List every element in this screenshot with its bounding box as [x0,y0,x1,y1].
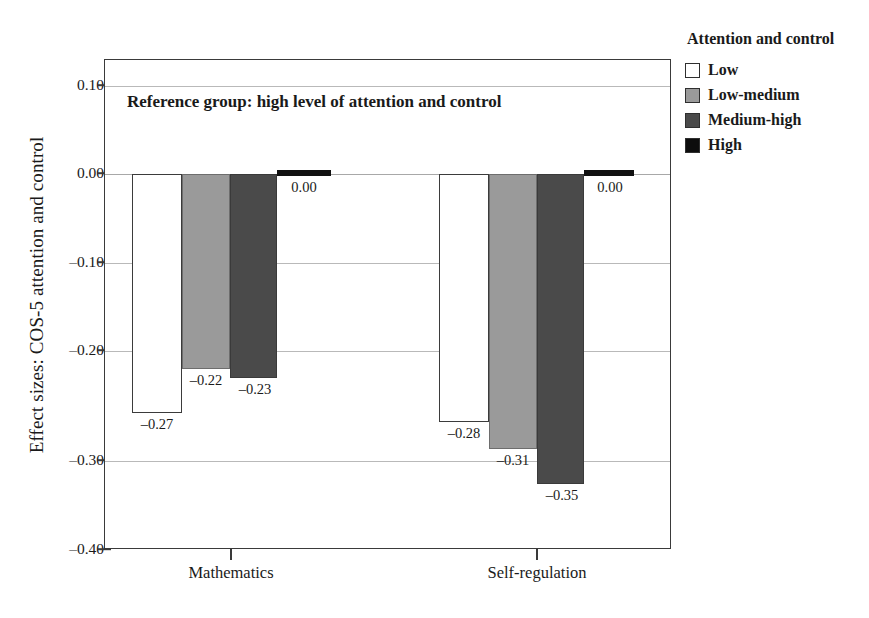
y-tick-label: –0.10 [42,253,104,271]
y-tick-label: –0.30 [42,451,104,469]
legend-label-medium-high: Medium-high [708,111,801,129]
bar-mathematics-medium-high [230,174,277,378]
y-axis-tick-labels: 0.10 0.00 –0.10 –0.20 –0.30 –0.40 [30,59,104,549]
y-tick-label: 0.00 [42,164,104,182]
legend-swatch-medium-high-icon [685,113,700,128]
legend-item-high: High [685,134,865,156]
y-tick-label: –0.20 [42,341,104,359]
bar-label-mathematics-low: –0.27 [141,416,174,433]
legend: Attention and control Low Low-medium Med… [685,30,865,159]
bar-mathematics-high [277,170,331,176]
bar-chart-figure: Effect sizes: COS-5 attention and contro… [0,0,869,618]
bar-selfregulation-low [439,174,489,422]
legend-swatch-low-icon [685,63,700,78]
legend-item-low-medium: Low-medium [685,84,865,106]
bar-label-selfregulation-medium-high: –0.35 [546,487,579,504]
bar-label-mathematics-high: 0.00 [291,179,316,196]
bar-label-selfregulation-high: 0.00 [597,179,622,196]
gridline-0.10 [105,86,670,87]
x-tick-label-selfregulation: Self-regulation [488,563,587,583]
reference-group-annotation: Reference group: high level of attention… [127,92,501,112]
bar-selfregulation-medium-high [537,174,584,484]
legend-title: Attention and control [687,30,865,48]
bar-mathematics-low-medium [182,174,230,369]
x-tick-mark-selfregulation [536,549,538,560]
bar-label-selfregulation-low: –0.28 [448,425,481,442]
gridline--0.30 [105,461,670,462]
bar-mathematics-low [132,174,182,413]
legend-item-medium-high: Medium-high [685,109,865,131]
legend-label-low-medium: Low-medium [708,86,800,104]
legend-label-low: Low [708,61,738,79]
legend-label-high: High [708,136,742,154]
bar-label-mathematics-low-medium: –0.22 [190,372,223,389]
y-tick-label: –0.40 [42,540,104,558]
bar-label-mathematics-medium-high: –0.23 [239,381,272,398]
plot-area: Reference group: high level of attention… [104,59,671,549]
legend-swatch-high-icon [685,138,700,153]
bar-label-selfregulation-low-medium: –0.31 [497,452,530,469]
y-tick-label: 0.10 [42,76,104,94]
legend-item-low: Low [685,59,865,81]
bar-selfregulation-high [584,170,634,176]
x-tick-mark-mathematics [230,549,232,560]
x-tick-label-mathematics: Mathematics [188,563,273,583]
legend-swatch-low-medium-icon [685,88,700,103]
bar-selfregulation-low-medium [489,174,537,449]
